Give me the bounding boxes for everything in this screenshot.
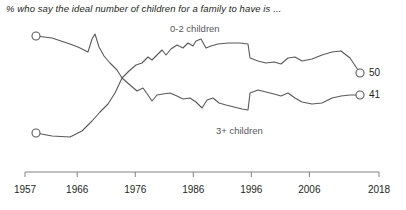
x-axis-tick-label: 2006 <box>298 184 320 195</box>
line-series-0-2-children <box>36 34 360 78</box>
end-value-series-3-plus-children: 41 <box>369 89 380 100</box>
start-marker-series-0-2-children <box>32 32 40 40</box>
end-value-series-0-2-children: 50 <box>369 67 380 78</box>
line-series-3-plus-children <box>36 78 360 137</box>
x-axis-ticks <box>25 172 379 177</box>
series-label-3-plus-children: 3+ children <box>216 125 263 136</box>
series-label-0-2-children: 0-2 children <box>170 23 220 34</box>
x-axis-tick-label: 2018 <box>368 184 390 195</box>
end-marker-series-0-2-children <box>356 69 364 77</box>
x-axis-tick-label: 1957 <box>14 184 36 195</box>
x-axis-tick-label: 1996 <box>240 184 262 195</box>
x-axis-tick-label: 1976 <box>124 184 146 195</box>
chart-container: % who say the ideal number of children f… <box>0 0 406 210</box>
end-marker-series-3-plus-children <box>356 91 364 99</box>
x-axis-tick-label: 1986 <box>182 184 204 195</box>
x-axis-tick-label: 1966 <box>66 184 88 195</box>
start-marker-series-3-plus-children <box>32 129 40 137</box>
